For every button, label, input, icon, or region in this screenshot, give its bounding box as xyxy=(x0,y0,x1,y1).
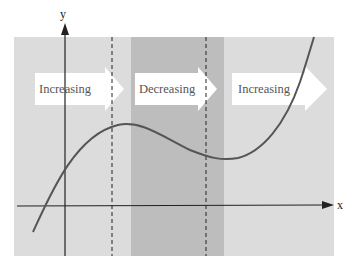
y-axis-label: y xyxy=(60,7,66,21)
region-increasing-right xyxy=(224,37,334,256)
function-diagram: Increasing Decreasing Increasing x y xyxy=(0,0,350,265)
region-decreasing xyxy=(131,37,224,256)
label-increasing-right: Increasing xyxy=(238,82,291,96)
x-axis-label: x xyxy=(337,198,343,212)
label-decreasing: Decreasing xyxy=(139,82,196,96)
arrow-increasing-left: Increasing xyxy=(35,67,124,111)
y-axis-arrowhead-icon xyxy=(61,23,69,35)
region-increasing-left xyxy=(14,37,131,256)
